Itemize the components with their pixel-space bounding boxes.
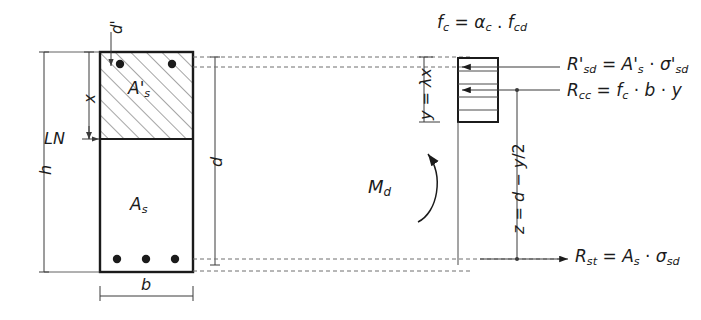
diagram-canvas: d' h x LN A's As d b fc = αc . fcd y = λ… <box>0 0 701 320</box>
force-node-tension <box>515 257 519 261</box>
force-node-concrete <box>515 88 519 92</box>
label-lever-arm: z = d − y/2 <box>511 143 527 234</box>
rebar-bottom <box>171 255 179 263</box>
label-compression-steel-area: A's <box>128 80 150 99</box>
rebar-top <box>116 60 124 68</box>
label-neutral-axis-depth: x <box>83 94 98 103</box>
label-force-concrete: Rcc = fc · b · y <box>567 82 682 101</box>
label-stress-block-depth: y = λx <box>418 68 434 120</box>
label-overall-height: h <box>38 165 54 175</box>
diagram-vector-layer <box>0 0 701 320</box>
label-width: b <box>141 277 151 293</box>
label-design-moment: Md <box>368 178 391 199</box>
label-effective-depth: d <box>209 157 225 167</box>
label-tension-steel-area: As <box>130 196 148 215</box>
label-concrete-strength-formula: fc = αc . fcd <box>437 14 527 33</box>
label-cover-top: d' <box>110 20 125 34</box>
label-force-compression-steel: R'sd = A's · σ'sd <box>567 56 688 75</box>
label-neutral-axis: LN <box>44 131 65 147</box>
moment-arc-arrow <box>418 154 437 222</box>
label-force-tension-steel: Rst = As · σsd <box>575 248 680 267</box>
rebar-bottom <box>142 255 150 263</box>
rebar-top <box>168 60 176 68</box>
rebar-bottom <box>113 255 121 263</box>
